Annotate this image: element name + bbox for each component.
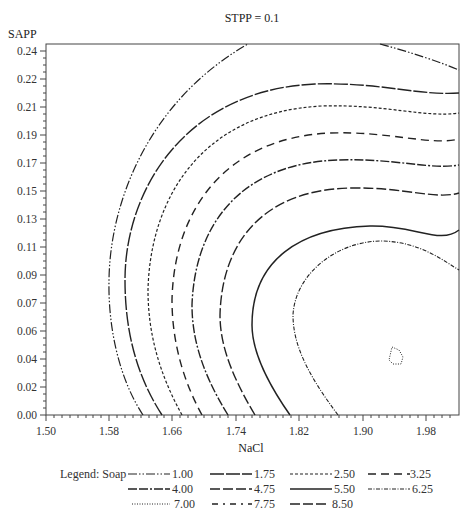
- svg-text:1.66: 1.66: [162, 425, 182, 437]
- svg-text:5.50: 5.50: [334, 482, 355, 496]
- contour-1-00: [109, 44, 248, 415]
- svg-text:1.82: 1.82: [289, 425, 309, 437]
- contour-4-00: [192, 160, 459, 415]
- x-axis-ticks: [46, 415, 450, 421]
- contour-chart: STPP = 0.1 SAPP NaCl 0.00: [0, 0, 466, 520]
- svg-text:4.75: 4.75: [254, 482, 275, 496]
- legend-item-1-00: 1.00: [128, 467, 193, 481]
- legend-item-6-25: 6.25: [368, 482, 433, 496]
- contour-5-50: [252, 226, 459, 415]
- legend-item-3-25: 3.25: [368, 467, 431, 481]
- y-axis-title: SAPP: [8, 27, 37, 41]
- x-tick-labels: 1.50 1.58 1.66 1.74 1.82 1.90 1.98: [36, 425, 436, 437]
- svg-text:1.00: 1.00: [172, 467, 193, 481]
- contour-1-75: [125, 84, 459, 415]
- svg-text:1.98: 1.98: [416, 425, 436, 437]
- contour-4-75: [220, 188, 459, 415]
- svg-text:1.50: 1.50: [36, 425, 56, 437]
- svg-text:0.09: 0.09: [17, 269, 37, 281]
- svg-text:0.13: 0.13: [17, 213, 37, 225]
- contour-3-25: [172, 133, 459, 415]
- contour-7-00: [389, 347, 403, 364]
- svg-text:7.00: 7.00: [174, 497, 195, 511]
- svg-text:8.50: 8.50: [332, 497, 353, 511]
- legend-item-5-50: 5.50: [290, 482, 355, 496]
- svg-text:0.15: 0.15: [17, 185, 37, 197]
- plot-frame: [46, 44, 459, 415]
- svg-text:0.07: 0.07: [17, 297, 37, 309]
- svg-text:1.90: 1.90: [353, 425, 373, 437]
- svg-text:0.11: 0.11: [17, 241, 37, 253]
- svg-text:0.22: 0.22: [17, 73, 37, 85]
- legend-title: Legend: Soap: [60, 467, 126, 481]
- svg-text:2.50: 2.50: [334, 467, 355, 481]
- svg-text:0.19: 0.19: [17, 129, 37, 141]
- y-axis-ticks: [40, 51, 46, 415]
- svg-text:7.75: 7.75: [254, 497, 275, 511]
- svg-text:0.00: 0.00: [17, 409, 37, 421]
- svg-text:1.75: 1.75: [254, 467, 275, 481]
- legend: Legend: Soap 1.00 1.75 2.50 3.25 4.00 4.…: [60, 467, 433, 511]
- legend-item-1-75: 1.75: [210, 467, 275, 481]
- svg-text:0.04: 0.04: [17, 353, 37, 365]
- legend-item-4-75: 4.75: [210, 482, 275, 496]
- legend-item-4-00: 4.00: [128, 482, 193, 496]
- contour-lines: [109, 44, 459, 415]
- svg-text:4.00: 4.00: [172, 482, 193, 496]
- legend-item-8-50: 8.50: [290, 497, 353, 511]
- contour-6-25: [293, 241, 459, 415]
- y-tick-labels: 0.00 0.02 0.04 0.06 0.07 0.09 0.11 0.13 …: [17, 45, 37, 421]
- legend-item-2-50: 2.50: [290, 467, 355, 481]
- contour-2-50: [148, 106, 459, 415]
- svg-text:0.02: 0.02: [17, 381, 37, 393]
- svg-text:1.74: 1.74: [226, 425, 246, 437]
- chart-title: STPP = 0.1: [225, 11, 280, 25]
- legend-item-7-75: 7.75: [212, 497, 275, 511]
- svg-text:0.06: 0.06: [17, 325, 37, 337]
- svg-text:0.21: 0.21: [17, 101, 37, 113]
- svg-text:0.24: 0.24: [17, 45, 37, 57]
- contour-1-00-right: [380, 44, 459, 70]
- svg-text:0.17: 0.17: [17, 157, 37, 169]
- svg-text:3.25: 3.25: [410, 467, 431, 481]
- legend-item-7-00: 7.00: [132, 497, 195, 511]
- svg-text:6.25: 6.25: [412, 482, 433, 496]
- svg-text:1.58: 1.58: [99, 425, 119, 437]
- x-axis-title: NaCl: [238, 441, 264, 455]
